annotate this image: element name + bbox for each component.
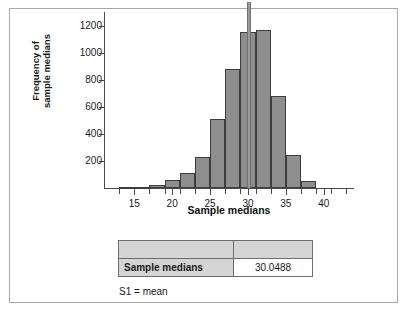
histogram-bar [225,69,240,188]
x-tick [149,189,150,194]
x-tick [301,189,302,194]
x-tick-major [134,189,135,195]
y-tick-label: 600 [85,102,102,112]
histogram-bar [195,157,210,188]
histogram-bar [271,96,286,188]
x-tick [165,189,166,194]
histogram-bar [180,173,195,188]
results-table-wrap: Sample medians30.0488 [118,240,290,277]
x-tick [180,189,181,194]
screenshot-page: Frequency of sample medians 200400600800… [0,0,409,317]
histogram-bar [301,181,316,188]
x-tick [256,189,257,194]
histogram-chart: Frequency of sample medians 200400600800… [20,8,365,223]
x-tick [240,189,241,194]
y-axis-title: Frequency of sample medians [30,6,52,136]
x-tick [195,189,196,194]
x-tick [119,189,120,194]
y-tick-label: 800 [85,75,102,85]
x-tick-major [286,189,287,195]
histogram-bar [286,155,301,188]
y-axis-title-line1: Frequency of [30,6,41,136]
histogram-bar [210,119,225,188]
x-tick [316,189,317,194]
table-cell-value: 30.0488 [234,259,313,277]
histogram-bar [134,187,149,189]
x-axis-title: Sample medians [104,204,354,216]
x-tick-major [210,189,211,195]
histogram-bar [119,187,134,189]
y-tick-label: 1200 [80,21,102,31]
x-tick-major [172,189,173,195]
mean-marker-line [247,2,251,188]
y-axis-title-line2: sample medians [41,6,52,136]
results-table: Sample medians30.0488 [118,240,313,277]
table-header-row [119,241,313,259]
table-cell-label: Sample medians [119,259,234,277]
histogram-bar [165,180,180,188]
table-row: Sample medians30.0488 [119,259,313,277]
footnote-text: mean [143,286,168,297]
x-tick-major [248,189,249,195]
y-tick-label: 200 [85,156,102,166]
x-tick [225,189,226,194]
x-tick [346,189,347,194]
x-tick [271,189,272,194]
x-tick-major [324,189,325,195]
y-tick-label: 400 [85,129,102,139]
table-header-cell-left [119,241,234,259]
footnote-symbol: S1 = [119,286,140,297]
histogram-bar [149,185,164,188]
plot-area: 20040060080010001200 152025303540 [104,12,354,190]
x-tick [331,189,332,194]
table-footnote: S1 = mean [119,286,168,297]
table-header-cell-right [234,241,313,259]
y-tick-label: 1000 [80,48,102,58]
histogram-bar [256,30,271,188]
